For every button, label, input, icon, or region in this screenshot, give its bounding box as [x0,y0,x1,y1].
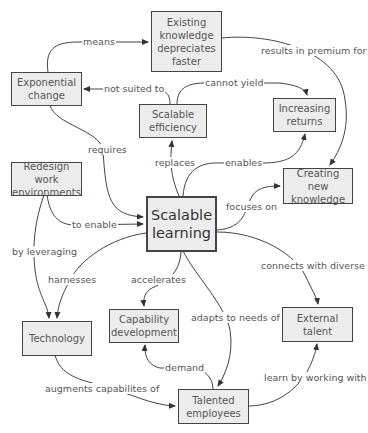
edge-label-cannot-yield: cannot yield [204,77,264,88]
node-technology: Technology [22,321,92,356]
edge-label-means: means [82,36,116,47]
edge-label-augments-capabilites-of: augments capabilites of [44,383,160,394]
node-capability-development: Capability development [109,309,179,343]
node-existing-knowledge: Existing knowledge depreciates faster [151,11,222,72]
edge-label-requires: requires [87,144,128,155]
edge-label-enables: enables [224,157,263,168]
edge-label-accelerates: accelerates [130,274,187,285]
edge-label-results-in-premium-for: results in premium for [260,45,367,56]
node-scalable-learning: Scalable learning [146,196,217,252]
edge-replaces [171,141,179,196]
node-scalable-efficiency: Scalable efficiency [139,104,207,138]
node-exponential-change: Exponential change [11,72,82,106]
edge-label-learn-by-working-with: learn by working with [263,372,368,383]
node-talented-employees: Talented employees [178,389,249,424]
edge-label-replaces: replaces [154,157,196,168]
edge-label-demand: demand [164,362,205,373]
node-external-talent: External talent [282,307,353,342]
edge-label-focuses-on: focuses on [225,201,278,212]
node-increasing-returns: Increasing returns [273,98,336,132]
edge-label-connects-with-diverse: connects with diverse [260,260,366,271]
edge-augments [55,355,175,406]
edge-label-not-suited-to: not suited to [103,83,165,94]
edge-label-harnesses: harnesses [47,274,97,285]
node-redesign-work-environments: Redesign work environments [11,162,82,196]
edge-label-by-leveraging: by leveraging [11,246,78,257]
node-creating-new-knowledge: Creating new knowledge [283,168,353,204]
edge-label-adapts-to-needs-of: adapts to needs of [190,312,281,323]
edge-label-to-enable: to enable [71,219,118,230]
